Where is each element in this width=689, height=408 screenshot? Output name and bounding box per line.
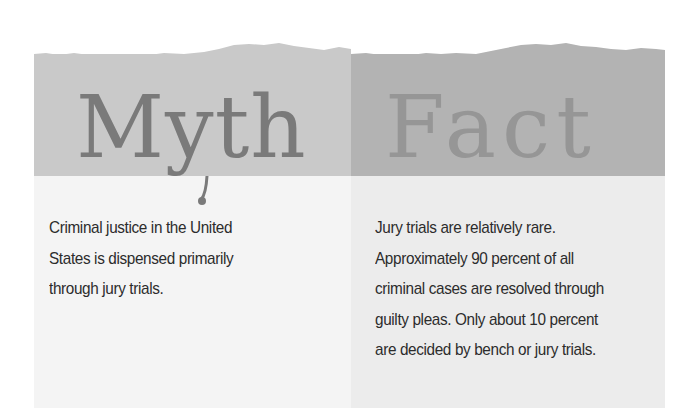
myth-line: States is dispensed primarily — [49, 244, 292, 275]
fact-line: guilty pleas. Only about 10 percent — [375, 305, 663, 336]
fact-line: criminal cases are resolved through — [375, 274, 663, 305]
fact-line: Approximately 90 percent of all — [375, 244, 663, 275]
myth-line: through jury trials. — [49, 274, 292, 305]
myth-line: Criminal justice in the United — [49, 213, 292, 244]
fact-line: Jury trials are relatively rare. — [375, 213, 663, 244]
fact-text: Jury trials are relatively rare. Approxi… — [375, 213, 663, 366]
myth-panel: Myth Criminal justice in the United Stat… — [34, 0, 351, 408]
myth-title: Myth — [76, 84, 307, 170]
fact-line: are decided by bench or jury trials. — [375, 335, 663, 366]
fact-panel: Fact Jury trials are relatively rare. Ap… — [351, 0, 665, 408]
y-descender-decoration — [198, 176, 210, 206]
fact-title: Fact — [385, 84, 597, 170]
myth-text: Criminal justice in the United States is… — [49, 213, 292, 305]
